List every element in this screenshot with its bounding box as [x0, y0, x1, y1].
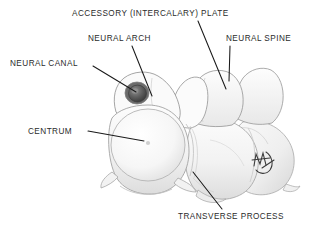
label-centrum: CENTRUM — [28, 127, 72, 137]
neural-canal-opening — [125, 82, 149, 104]
anatomical-figure: ACCESSORY (INTERCALARY) PLATE NEURAL ARC… — [0, 0, 315, 233]
label-accessory-intercalary-plate: ACCESSORY (INTERCALARY) PLATE — [72, 9, 229, 19]
canal-aperture — [129, 85, 147, 102]
anterior-transverse-process-left — [101, 172, 118, 188]
label-neural-canal: NEURAL CANAL — [10, 59, 78, 69]
label-neural-spine: NEURAL SPINE — [226, 34, 291, 44]
label-transverse-process: TRANSVERSE PROCESS — [178, 212, 284, 222]
label-neural-arch: NEURAL ARCH — [88, 34, 151, 44]
posterior-transverse-process — [283, 184, 300, 192]
notochordal-pit — [146, 141, 150, 145]
